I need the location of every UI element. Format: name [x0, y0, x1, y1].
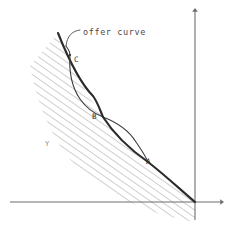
offer-curve-caption: offer curve	[83, 28, 146, 37]
point-c-marker	[69, 54, 71, 56]
point-b-marker	[102, 116, 104, 118]
point-a-label: A	[146, 158, 151, 166]
caption-leader-line	[66, 30, 80, 46]
offer-curve-figure: offer curve C B A Y	[0, 0, 235, 237]
hatched-region	[30, 33, 195, 222]
region-y-label: Y	[45, 141, 49, 148]
point-c-label: C	[74, 56, 79, 64]
point-b-label: B	[92, 113, 97, 121]
